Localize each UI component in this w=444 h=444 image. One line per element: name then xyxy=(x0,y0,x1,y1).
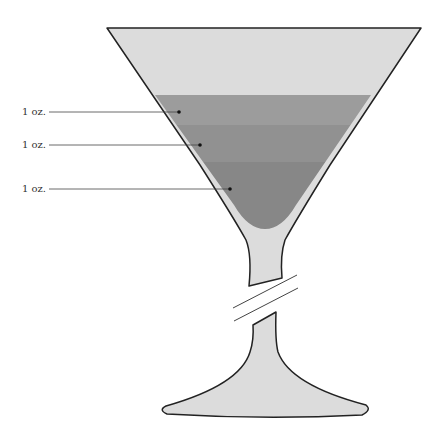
liquid xyxy=(140,95,390,232)
martini-glass-diagram: 1 oz. 1 oz. 1 oz. xyxy=(0,0,444,444)
layer-top xyxy=(140,95,390,125)
label-2: 1 oz. xyxy=(22,139,202,150)
label-1: 1 oz. xyxy=(22,106,181,117)
break-line-2 xyxy=(234,288,298,321)
glass-foot xyxy=(162,312,368,417)
label-3: 1 oz. xyxy=(22,183,232,194)
layer-bottom xyxy=(140,162,390,232)
label-text: 1 oz. xyxy=(22,139,46,150)
leader-dot xyxy=(198,143,202,147)
label-text: 1 oz. xyxy=(22,106,46,117)
leader-dot xyxy=(228,187,232,191)
label-text: 1 oz. xyxy=(22,183,46,194)
leader-dot xyxy=(177,110,181,114)
